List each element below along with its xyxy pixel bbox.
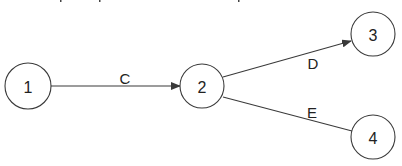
node-2: 2 — [180, 64, 224, 108]
network-diagram: C D E 1 2 3 4 — [0, 0, 402, 166]
cut-off-title-fragment — [60, 0, 240, 2]
edge-d-label: D — [308, 55, 319, 72]
edge-d: D — [223, 41, 351, 77]
edge-e-line — [223, 97, 352, 131]
edge-c-label: C — [120, 70, 131, 87]
node-3-label: 3 — [369, 27, 378, 44]
node-1-label: 1 — [24, 79, 33, 96]
node-4: 4 — [351, 115, 395, 159]
edge-e-label: E — [307, 104, 317, 121]
node-1: 1 — [5, 63, 51, 109]
node-3: 3 — [351, 12, 395, 56]
node-4-label: 4 — [369, 130, 378, 147]
edge-d-line — [223, 41, 351, 77]
node-2-label: 2 — [198, 79, 207, 96]
edge-c: C — [51, 70, 180, 87]
edge-e: E — [223, 97, 352, 131]
